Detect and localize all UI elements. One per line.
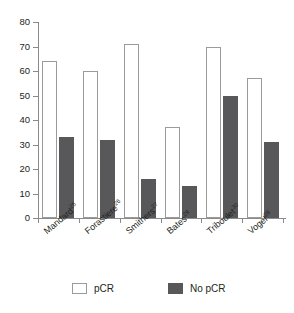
open-square-swatch-icon	[72, 283, 87, 294]
x-axis-tick	[79, 219, 80, 223]
x-axis-tick	[201, 219, 202, 223]
x-axis-line	[38, 218, 286, 219]
x-axis-tick	[120, 219, 121, 223]
bar-chart-figure: 80706050403020100 Mandard25Forastiere26S…	[0, 0, 294, 313]
bar-triboulet-pcr	[206, 47, 221, 219]
x-axis-tick	[242, 219, 243, 223]
plot-area	[38, 22, 283, 218]
bar-vogel-pcr	[247, 78, 262, 218]
legend-item-no-pcr: No pCR	[168, 283, 226, 294]
bar-forastiere-pcr	[83, 71, 98, 218]
filled-square-swatch-icon	[168, 283, 183, 294]
y-axis-tick-label: 30	[8, 140, 30, 150]
legend-label-pcr: pCR	[94, 283, 114, 294]
y-axis-tick-label: 10	[8, 189, 30, 199]
y-axis-tick-label: 0	[8, 213, 30, 223]
bar-smithers-pcr	[124, 44, 139, 218]
y-axis-tick-label: 50	[8, 91, 30, 101]
legend-item-pcr: pCR	[72, 283, 114, 294]
legend-label-no-pcr: No pCR	[190, 283, 226, 294]
x-axis-tick	[38, 219, 39, 223]
x-axis-tick	[161, 219, 162, 223]
x-axis-tick	[283, 219, 284, 223]
bar-triboulet-no-pcr	[223, 96, 238, 219]
y-axis-tick-label: 80	[8, 17, 30, 27]
y-axis-tick-label: 40	[8, 115, 30, 125]
y-axis-tick-label: 60	[8, 66, 30, 76]
y-axis-tick-label: 20	[8, 164, 30, 174]
chart-legend: pCR No pCR	[0, 283, 294, 303]
bar-bates-pcr	[165, 127, 180, 218]
y-axis-tick-label: 70	[8, 42, 30, 52]
bar-mandard-pcr	[42, 61, 57, 218]
